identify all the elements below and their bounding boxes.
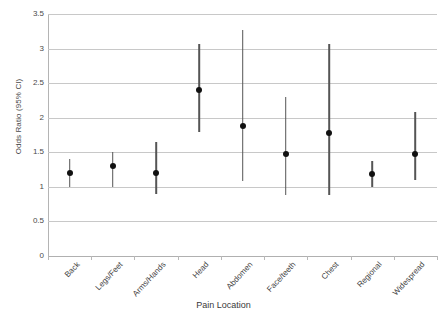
y-axis-tick-label: 0 xyxy=(20,252,44,260)
data-point-marker xyxy=(196,87,202,93)
data-point-marker xyxy=(326,130,332,136)
x-axis-category-label: Face/teeth xyxy=(265,260,297,294)
y-axis-tick-label: 3 xyxy=(20,45,44,53)
data-point-marker xyxy=(240,123,246,129)
odds-ratio-forest-chart: Odds Ratio (95% CI) 00.511.522.533.5 Bac… xyxy=(0,0,447,319)
x-axis-category-label: Head xyxy=(191,260,211,280)
x-axis-category-label: Legs/Feet xyxy=(94,260,125,292)
y-axis-tick-label: 3.5 xyxy=(20,10,44,18)
gridline xyxy=(48,14,437,15)
x-axis-category-label: Arms/Hands xyxy=(131,260,168,298)
confidence-interval-whisker xyxy=(242,30,244,181)
data-point-marker xyxy=(110,163,116,169)
x-axis-category-label: Abdomen xyxy=(224,260,254,291)
y-axis-tick-label: 1 xyxy=(20,183,44,191)
confidence-interval-whisker xyxy=(415,112,417,180)
confidence-interval-whisker xyxy=(285,97,287,195)
x-axis-category-labels: BackLegs/FeetArms/HandsHeadAbdomenFace/t… xyxy=(48,258,437,302)
confidence-interval-whisker xyxy=(328,44,330,195)
y-axis-tick-label: 2.5 xyxy=(20,79,44,87)
data-point-marker xyxy=(153,170,159,176)
gridline xyxy=(48,187,437,188)
y-axis-line xyxy=(48,14,49,256)
data-point-marker xyxy=(369,171,375,177)
x-axis-tick-mark xyxy=(437,256,438,260)
x-axis-category-label: Widespread xyxy=(391,260,427,297)
y-axis-tick-labels: 00.511.522.533.5 xyxy=(18,0,44,319)
x-axis-category-label: Regional xyxy=(356,260,384,289)
x-axis-category-label: Back xyxy=(62,260,81,279)
gridline xyxy=(48,221,437,222)
y-axis-tick-label: 0.5 xyxy=(20,217,44,225)
data-point-marker xyxy=(412,151,418,157)
confidence-interval-whisker xyxy=(112,152,114,187)
plot-area xyxy=(48,14,437,256)
x-axis-title: Pain Location xyxy=(0,300,447,310)
data-point-marker xyxy=(283,151,289,157)
x-axis-category-label: Chest xyxy=(320,260,341,281)
confidence-interval-whisker xyxy=(155,142,157,194)
y-axis-tick-label: 1.5 xyxy=(20,148,44,156)
data-point-marker xyxy=(67,170,73,176)
y-axis-tick-label: 2 xyxy=(20,114,44,122)
